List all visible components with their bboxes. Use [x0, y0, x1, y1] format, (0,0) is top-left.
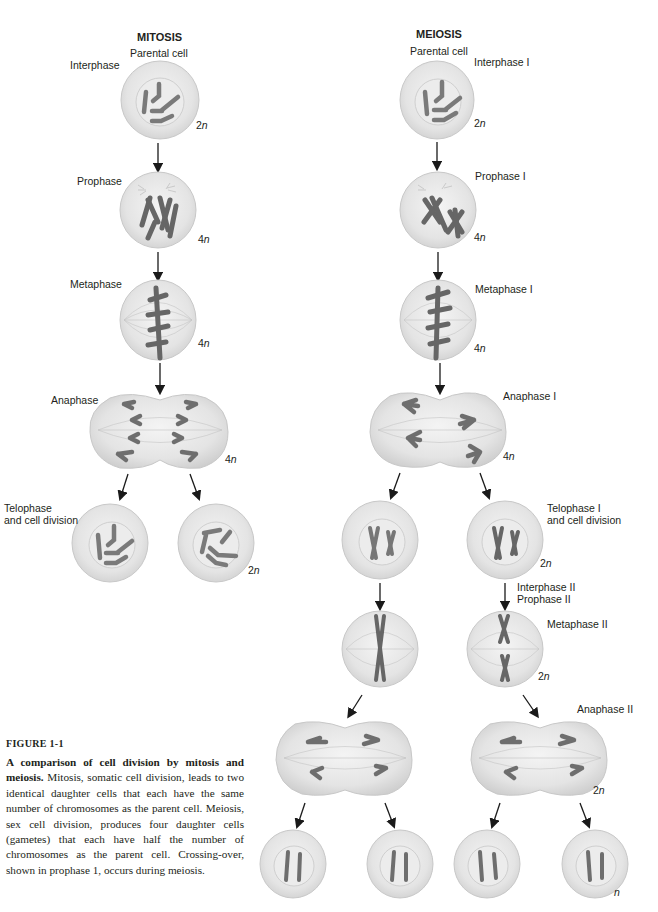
ploidy-label: n — [614, 886, 620, 898]
ploidy-label: 4n — [474, 231, 486, 243]
label-anaphase-2: Anaphase II — [577, 703, 633, 715]
ploidy-label: 2n — [593, 784, 605, 796]
ploidy-label: 4n — [198, 233, 210, 245]
ploidy-label: 2n — [540, 557, 552, 569]
ploidy-label: 2n — [248, 564, 260, 576]
label-telophase: Telophase — [4, 502, 52, 514]
caption-text: A comparison of cell division by mitosis… — [6, 755, 244, 878]
meiosis-title: MEIOSIS — [416, 28, 462, 40]
arrow-icon — [523, 695, 536, 714]
label-prophase-2: Prophase II — [517, 593, 571, 605]
ploidy-label: 2n — [196, 119, 208, 131]
mitosis-interphase-cell — [121, 61, 199, 139]
mitosis-daughter-cell-left — [72, 504, 148, 582]
arrow-icon — [392, 473, 400, 495]
arrow-icon — [121, 474, 128, 496]
meiosis-anaphase1-cell — [370, 393, 506, 468]
meiosis-prophase1-cell — [400, 172, 476, 248]
gamete-cell — [454, 830, 520, 898]
arrow-icon — [385, 803, 393, 824]
meiosis-metaphase2-cell-right — [467, 611, 543, 687]
arrow-icon — [350, 695, 362, 714]
ploidy-label: 4n — [503, 450, 515, 462]
meiosis-telophase1-cell-left — [342, 501, 418, 579]
label-metaphase: Metaphase — [70, 278, 122, 290]
label-metaphase-1: Metaphase I — [475, 283, 533, 295]
label-metaphase-2: Metaphase II — [547, 618, 608, 630]
arrow-icon — [493, 803, 500, 824]
arrow-icon — [298, 803, 305, 824]
label-prophase: Prophase — [77, 175, 122, 187]
mitosis-title: MITOSIS — [137, 31, 182, 43]
mitosis-parental-label: Parental cell — [130, 47, 188, 59]
figure-label: FIGURE 1-1 — [6, 738, 244, 749]
label-prophase-1: Prophase I — [475, 170, 526, 182]
gamete-cell — [367, 830, 433, 898]
mitosis-daughter-cell-right — [178, 504, 254, 582]
meiosis-metaphase2-cell-left — [342, 611, 418, 687]
mitosis-metaphase-cell — [120, 280, 196, 360]
label-anaphase: Anaphase — [51, 394, 98, 406]
ploidy-label: 4n — [225, 453, 237, 465]
arrow-icon — [480, 473, 488, 495]
mitosis-anaphase-cell — [90, 394, 228, 468]
ploidy-label: 2n — [474, 117, 486, 129]
meiosis-anaphase2-cell-right — [471, 722, 607, 796]
label-interphase-2: Interphase II — [517, 581, 575, 593]
meiosis-parental-label: Parental cell — [410, 45, 468, 57]
label-telophase-line2: and cell division — [4, 514, 78, 526]
meiosis-interphase1-cell — [400, 61, 474, 139]
meiosis-metaphase1-cell — [400, 280, 476, 360]
meiosis-anaphase2-cell-left — [276, 722, 412, 796]
figure-caption: FIGURE 1-1 A comparison of cell division… — [6, 738, 244, 878]
meiosis-telophase1-cell-right — [467, 501, 543, 579]
label-telophase-1-line2: and cell division — [547, 514, 621, 526]
ploidy-label: 4n — [474, 342, 486, 354]
arrow-icon — [580, 803, 588, 824]
label-telophase-1: Telophase I — [547, 502, 601, 514]
arrow-icon — [190, 474, 198, 496]
caption-body: Mitosis, somatic cell division, leads to… — [6, 771, 244, 875]
label-anaphase-1: Anaphase I — [503, 390, 556, 402]
ploidy-label: 2n — [538, 670, 550, 682]
mitosis-prophase-cell — [120, 172, 196, 248]
gamete-cell — [260, 830, 326, 898]
label-interphase: Interphase — [70, 59, 120, 71]
label-interphase-1: Interphase I — [474, 56, 529, 68]
ploidy-label: 4n — [198, 337, 210, 349]
